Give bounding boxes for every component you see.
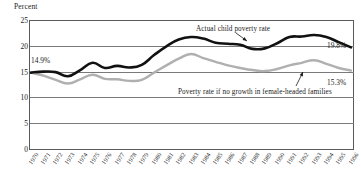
x-axis-tick-labels: 1970197119721973197419751976197719781979… [29,151,354,180]
x-axis-tick-label: 1992 [297,151,310,165]
x-axis-tick-label: 1987 [235,151,248,165]
x-axis-tick-label: 1973 [63,151,76,165]
x-axis-tick-label: 1975 [88,151,101,165]
start-value-label: 14.9% [31,56,50,65]
x-axis-tick-label: 1991 [285,151,298,165]
actual-leader-arrowhead [243,37,247,41]
x-axis-tick-label: 1980 [149,151,162,165]
x-axis-tick-label: 1984 [198,151,211,165]
x-axis-tick-label: 1977 [112,151,125,165]
x-axis-tick-label: 1985 [211,151,224,165]
actual-end-value-label: 19.8% [327,41,346,50]
x-axis-tick-label: 1978 [125,151,138,165]
x-axis-tick-label: 1971 [38,151,51,165]
x-axis-tick-label: 1995 [334,151,347,165]
actual-series-annotation: Actual child poverty rate [196,25,270,33]
counterfactual-series-annotation: Poverty rate if no growth in female-head… [178,88,332,96]
x-axis-tick-label: 1970 [26,151,39,165]
x-axis-tick-label: 1982 [174,151,187,165]
counterfactual-poverty-line [31,54,351,83]
x-axis-tick-label: 1989 [260,151,273,165]
x-axis-tick-label: 1994 [322,151,335,165]
x-axis-tick-label: 1979 [137,151,150,165]
x-axis-tick-label: 1993 [309,151,322,165]
child-poverty-rate-chart: Percent 0510152025 Actual child poverty … [0,0,361,180]
x-axis-tick-label: 1983 [186,151,199,165]
x-axis-tick-label: 1990 [272,151,285,165]
x-axis-tick-label: 1974 [75,151,88,165]
x-axis-tick-label: 1986 [223,151,236,165]
x-axis-tick-label: 1988 [248,151,261,165]
x-axis-tick-label: 1976 [100,151,113,165]
actual-poverty-line [31,35,351,76]
x-axis-tick-label: 1972 [51,151,64,165]
x-axis-tick-label: 1981 [162,151,175,165]
counterfactual-end-value-label: 15.3% [327,78,346,87]
